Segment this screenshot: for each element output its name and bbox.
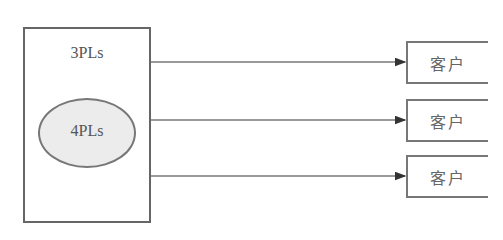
customer-label: 客户 [430, 109, 466, 133]
customer-box-2: 客户 [406, 99, 488, 142]
customer-label: 客户 [430, 165, 466, 189]
customer-box-1: 客户 [406, 41, 488, 84]
customer-label: 客户 [430, 51, 466, 75]
customer-box-3: 客户 [406, 155, 488, 198]
